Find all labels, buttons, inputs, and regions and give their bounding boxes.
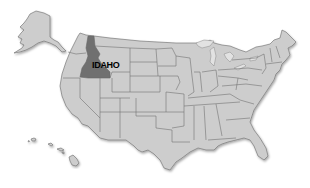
- alaska: [14, 11, 66, 53]
- us-map: [0, 0, 310, 188]
- hawaii: [28, 138, 79, 166]
- idaho-label: IDAHO: [92, 60, 120, 70]
- contiguous-us: [60, 30, 296, 170]
